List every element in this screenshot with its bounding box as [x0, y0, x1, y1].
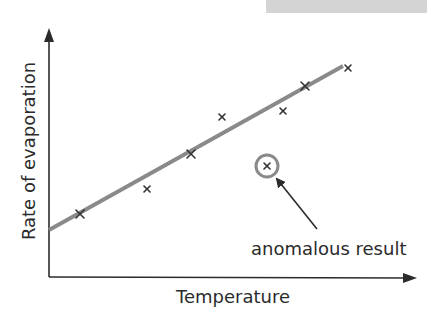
x-axis-label: Temperature — [175, 286, 290, 307]
data-point-x-marker — [144, 186, 150, 192]
y-axis-arrow-icon — [44, 28, 54, 42]
y-axis — [44, 28, 54, 277]
data-point-x-marker — [219, 114, 225, 120]
data-point-x-marker — [280, 108, 286, 114]
scatter-chart: anomalous result Temperature Rate of eva… — [0, 0, 427, 325]
data-markers — [76, 65, 351, 218]
y-axis-label: Rate of evaporation — [18, 62, 39, 240]
annotation-label: anomalous result — [251, 238, 406, 259]
x-axis — [49, 273, 417, 283]
data-point-x-marker — [345, 65, 351, 71]
anomaly-pointer-arrow — [277, 179, 317, 229]
x-axis-arrow-icon — [403, 273, 417, 283]
anomalous-data-point-x-marker — [264, 163, 270, 169]
